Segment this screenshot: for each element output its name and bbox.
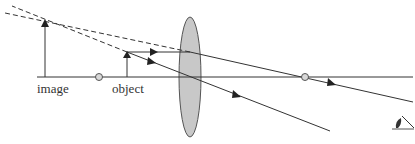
central-ray xyxy=(127,52,330,131)
object-label: object xyxy=(112,81,144,96)
ray-arrow-icon xyxy=(150,48,158,56)
ray-diagram: image object xyxy=(0,0,415,144)
focal-point-right xyxy=(302,74,309,81)
ray-arrow-icon xyxy=(147,57,156,65)
eye-icon xyxy=(392,116,414,129)
virtual-extension-1 xyxy=(5,13,190,52)
virtual-extension-2 xyxy=(12,6,127,52)
image-label: image xyxy=(37,81,69,96)
focal-point-left xyxy=(96,74,103,81)
image-arrow-head-icon xyxy=(41,19,49,27)
ray-arrow-icon xyxy=(232,90,241,98)
ray-arrow-icon xyxy=(327,78,336,86)
